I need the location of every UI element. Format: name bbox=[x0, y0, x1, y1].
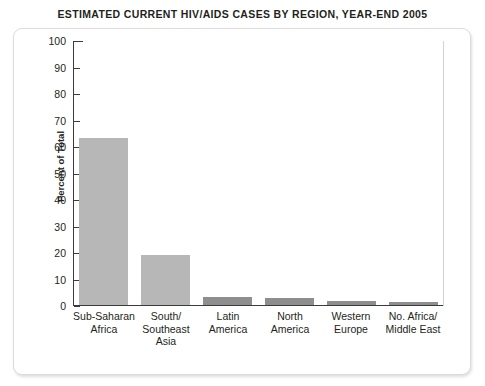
x-axis-label-line: Europe bbox=[320, 323, 382, 336]
x-axis-label-line: America bbox=[197, 323, 259, 336]
y-tick-label: 90 bbox=[54, 62, 66, 74]
x-axis-label: LatinAmerica bbox=[197, 310, 259, 335]
bar bbox=[389, 302, 438, 305]
y-tick-mark bbox=[74, 41, 80, 42]
x-axis-label-line: Western bbox=[320, 310, 382, 323]
y-tick-label: 40 bbox=[54, 194, 66, 206]
y-tick-label: 80 bbox=[54, 88, 66, 100]
x-axis-label-line: North bbox=[259, 310, 321, 323]
x-axis-label: NorthAmerica bbox=[259, 310, 321, 335]
bar bbox=[203, 297, 252, 305]
x-axis-labels: Sub-SaharanAfricaSouth/SoutheastAsiaLati… bbox=[73, 310, 444, 370]
x-axis-label: No. Africa/Middle East bbox=[382, 310, 444, 335]
x-axis-line bbox=[73, 305, 444, 306]
y-tick-mark bbox=[74, 306, 80, 307]
x-axis-label-line: Asia bbox=[135, 335, 197, 348]
y-tick-label: 0 bbox=[60, 300, 66, 312]
y-tick-label: 20 bbox=[54, 247, 66, 259]
y-tick-label: 60 bbox=[54, 141, 66, 153]
y-tick-label: 10 bbox=[54, 274, 66, 286]
y-tick-label: 50 bbox=[54, 168, 66, 180]
x-axis-label-line: Africa bbox=[73, 323, 135, 336]
x-axis-label-line: Middle East bbox=[382, 323, 444, 336]
bar bbox=[79, 138, 128, 305]
bar bbox=[327, 301, 376, 305]
x-axis-label: WesternEurope bbox=[320, 310, 382, 335]
x-axis-label-line: America bbox=[259, 323, 321, 336]
chart-card: Percent of Total 1009080706050403020100 … bbox=[13, 28, 471, 375]
x-axis-label-line: Latin bbox=[197, 310, 259, 323]
y-tick-mark bbox=[74, 94, 80, 95]
y-tick-label: 100 bbox=[48, 35, 66, 47]
x-axis-label-line: South/ bbox=[135, 310, 197, 323]
y-tick-mark bbox=[74, 68, 80, 69]
bar bbox=[141, 255, 190, 305]
y-tick-mark bbox=[74, 121, 80, 122]
x-axis-label-line: Sub-Saharan bbox=[73, 310, 135, 323]
x-axis-label-line: No. Africa/ bbox=[382, 310, 444, 323]
plot-area: 1009080706050403020100 bbox=[73, 41, 444, 306]
chart-title: ESTIMATED CURRENT HIV/AIDS CASES BY REGI… bbox=[0, 8, 485, 20]
right-axis-line bbox=[443, 41, 444, 306]
x-axis-label-line: Southeast bbox=[135, 323, 197, 336]
x-axis-label: Sub-SaharanAfrica bbox=[73, 310, 135, 335]
chart-figure: ESTIMATED CURRENT HIV/AIDS CASES BY REGI… bbox=[0, 0, 485, 386]
y-tick-label: 30 bbox=[54, 221, 66, 233]
y-tick-label: 70 bbox=[54, 115, 66, 127]
x-axis-label: South/SoutheastAsia bbox=[135, 310, 197, 348]
bar bbox=[265, 298, 314, 305]
